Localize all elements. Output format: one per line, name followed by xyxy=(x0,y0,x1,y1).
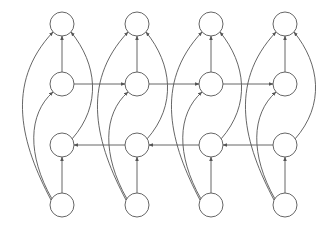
node-output xyxy=(50,12,74,36)
bidirectional-rnn-diagram xyxy=(0,0,329,242)
node-backward-hidden xyxy=(125,133,149,157)
node-input xyxy=(199,193,223,217)
node-output xyxy=(199,12,223,36)
node-forward-hidden xyxy=(273,72,297,96)
node-forward-hidden xyxy=(125,72,149,96)
node-input xyxy=(273,193,297,217)
node-input xyxy=(50,193,74,217)
diagram-canvas xyxy=(0,0,329,242)
node-forward-hidden xyxy=(199,72,223,96)
node-input xyxy=(125,193,149,217)
edge-input-to-output xyxy=(97,32,128,200)
node-output xyxy=(125,12,149,36)
node-output xyxy=(273,12,297,36)
node-backward-hidden xyxy=(199,133,223,157)
node-backward-hidden xyxy=(50,133,74,157)
node-backward-hidden xyxy=(273,133,297,157)
edge-input-to-output xyxy=(171,32,202,200)
edge-input-to-output xyxy=(22,32,53,200)
edge-input-to-output xyxy=(245,32,276,200)
node-forward-hidden xyxy=(50,72,74,96)
